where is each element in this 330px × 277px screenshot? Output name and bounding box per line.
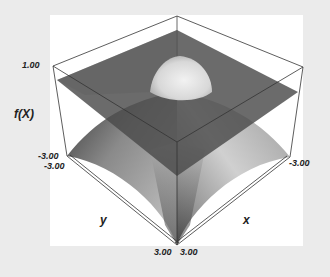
y-tick-min: -3.00 [44, 162, 65, 171]
z-axis-title: f(X) [14, 108, 34, 120]
z-tick-bottom: -3.00 [38, 152, 59, 161]
surface-plot [0, 0, 330, 277]
x-axis-title: x [243, 214, 250, 226]
x-tick-min: -3.00 [289, 159, 310, 168]
z-tick-top: 1.00 [22, 61, 40, 70]
x-tick-max: 3.00 [180, 248, 198, 257]
y-axis-title: y [100, 214, 107, 226]
y-tick-max: 3.00 [154, 248, 172, 257]
